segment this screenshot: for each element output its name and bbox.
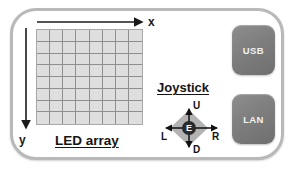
led-cell[interactable] — [103, 112, 116, 124]
led-cell[interactable] — [116, 101, 129, 113]
led-cell[interactable] — [50, 101, 63, 113]
led-cell[interactable] — [90, 77, 103, 89]
led-cell[interactable] — [129, 65, 142, 77]
led-cell[interactable] — [63, 65, 76, 77]
led-cell[interactable] — [37, 54, 50, 66]
led-cell[interactable] — [103, 101, 116, 113]
led-cell[interactable] — [63, 101, 76, 113]
led-cell[interactable] — [50, 54, 63, 66]
led-cell[interactable] — [37, 42, 50, 54]
led-cell[interactable] — [103, 42, 116, 54]
led-cell[interactable] — [90, 54, 103, 66]
led-cell[interactable] — [76, 77, 89, 89]
led-cell[interactable] — [116, 30, 129, 42]
led-array-caption: LED array — [55, 134, 119, 148]
joystick-up-label: U — [193, 101, 200, 111]
led-cell[interactable] — [37, 77, 50, 89]
led-cell[interactable] — [129, 89, 142, 101]
led-cell[interactable] — [116, 42, 129, 54]
led-cell[interactable] — [37, 89, 50, 101]
joystick-down-label: D — [193, 145, 200, 155]
led-cell[interactable] — [50, 65, 63, 77]
led-cell[interactable] — [76, 89, 89, 101]
led-cell[interactable] — [63, 30, 76, 42]
led-cell[interactable] — [90, 89, 103, 101]
led-array-grid[interactable] — [36, 29, 143, 125]
led-cell[interactable] — [76, 54, 89, 66]
joystick-enter-button[interactable]: E — [182, 121, 196, 135]
led-cell[interactable] — [50, 30, 63, 42]
led-cell[interactable] — [129, 101, 142, 113]
led-cell[interactable] — [129, 77, 142, 89]
joystick-control[interactable]: E U D L R — [160, 100, 222, 156]
led-cell[interactable] — [103, 65, 116, 77]
led-cell[interactable] — [90, 30, 103, 42]
led-cell[interactable] — [90, 101, 103, 113]
led-cell[interactable] — [103, 54, 116, 66]
led-cell[interactable] — [76, 101, 89, 113]
led-cell[interactable] — [63, 89, 76, 101]
led-cell[interactable] — [37, 101, 50, 113]
led-cell[interactable] — [50, 112, 63, 124]
lan-port-button[interactable]: LAN — [232, 94, 275, 144]
led-cell[interactable] — [116, 89, 129, 101]
led-cell[interactable] — [103, 77, 116, 89]
x-axis-label: x — [148, 16, 155, 28]
led-cell[interactable] — [103, 30, 116, 42]
joystick-left-label: L — [161, 132, 167, 142]
diagram-canvas: x y LED array Joystick E U D L R U — [0, 0, 296, 172]
joystick-right-label: R — [212, 132, 219, 142]
y-axis-label: y — [19, 134, 26, 146]
led-cell[interactable] — [63, 77, 76, 89]
led-cell[interactable] — [76, 65, 89, 77]
led-cell[interactable] — [116, 77, 129, 89]
led-cell[interactable] — [103, 89, 116, 101]
led-cell[interactable] — [63, 112, 76, 124]
led-cell[interactable] — [37, 30, 50, 42]
led-cell[interactable] — [90, 112, 103, 124]
led-cell[interactable] — [63, 42, 76, 54]
led-cell[interactable] — [50, 42, 63, 54]
led-cell[interactable] — [37, 112, 50, 124]
joystick-caption: Joystick — [157, 81, 209, 94]
led-cell[interactable] — [129, 42, 142, 54]
led-cell[interactable] — [50, 89, 63, 101]
led-cell[interactable] — [37, 65, 50, 77]
led-cell[interactable] — [90, 42, 103, 54]
led-cell[interactable] — [116, 112, 129, 124]
led-cell[interactable] — [90, 65, 103, 77]
led-cell[interactable] — [63, 54, 76, 66]
led-cell[interactable] — [116, 65, 129, 77]
led-cell[interactable] — [129, 54, 142, 66]
usb-port-button[interactable]: USB — [232, 25, 275, 75]
led-cell[interactable] — [129, 112, 142, 124]
led-cell[interactable] — [76, 42, 89, 54]
led-cell[interactable] — [129, 30, 142, 42]
led-cell[interactable] — [50, 77, 63, 89]
led-cell[interactable] — [76, 112, 89, 124]
led-cell[interactable] — [76, 30, 89, 42]
led-cell[interactable] — [116, 54, 129, 66]
